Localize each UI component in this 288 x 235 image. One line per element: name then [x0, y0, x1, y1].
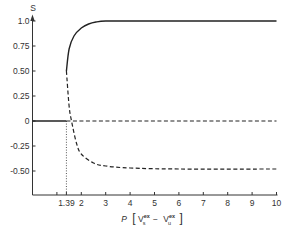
- y-tick-label: -0.50: [10, 166, 30, 176]
- phase-diagram-chart: 1.00.750.500.250-0.25-0.501.392345678910…: [0, 0, 288, 235]
- y-tick-label: 0: [25, 116, 30, 126]
- tick-labels: 1.00.750.500.250-0.25-0.501.392345678910: [10, 16, 281, 208]
- curves: [33, 21, 277, 195]
- x-tick-label: 3: [103, 198, 108, 208]
- x-tick-label: 8: [225, 198, 230, 208]
- x-tick-label: 6: [177, 198, 182, 208]
- x-tick-label: 9: [250, 198, 255, 208]
- y-tick-label: 0.50: [13, 66, 30, 76]
- series-ordered-unstable-branch: [66, 71, 276, 169]
- y-tick-label: 1.0: [18, 16, 30, 26]
- x-tick-label: 2: [79, 198, 84, 208]
- axes: [30, 15, 277, 196]
- x-tick-label: 1.39: [58, 198, 75, 208]
- y-tick-label: 0.25: [13, 91, 30, 101]
- x-tick-label: 7: [201, 198, 206, 208]
- y-tick-label: 0.75: [13, 41, 30, 51]
- y-axis-arrow-icon: [30, 15, 34, 22]
- x-axis-title: P [ Vexs − Vexu ]: [121, 211, 183, 227]
- x-tick-label: 4: [128, 198, 133, 208]
- x-tick-label: 10: [272, 198, 282, 208]
- y-axis-title: S: [30, 3, 36, 13]
- series-ordered-stable-branch: [66, 21, 276, 71]
- x-tick-label: 5: [152, 198, 157, 208]
- y-tick-label: -0.25: [10, 141, 30, 151]
